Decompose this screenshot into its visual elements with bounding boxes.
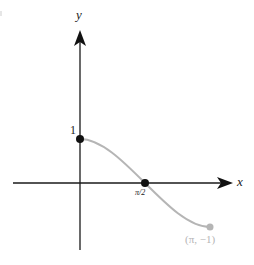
cosine-graph [0,0,254,265]
x-intercept-label: π/2 [135,189,145,197]
point-x-intercept [141,179,149,187]
x-axis-label: x [237,175,243,188]
point-y-intercept [76,135,84,143]
y-axis-label: y [76,8,82,21]
end-point-label: (π, −1) [185,234,215,245]
x-axis [13,177,233,189]
point-end [207,224,214,231]
y-intercept-label: 1 [70,124,76,136]
